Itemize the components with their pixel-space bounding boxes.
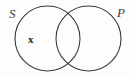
predicate-circle-label: P (117, 6, 125, 19)
venn-circles-canvas (0, 0, 134, 76)
venn-diagram: S P x (0, 0, 134, 76)
subject-circle-label: S (9, 7, 16, 20)
x-mark: x (28, 34, 34, 45)
